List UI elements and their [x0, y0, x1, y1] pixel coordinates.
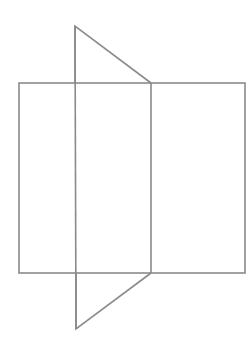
top-triangle: [75, 26, 151, 83]
main-rectangle: [19, 83, 245, 273]
bottom-triangle: [76, 273, 151, 329]
prism-net-diagram: [0, 0, 251, 345]
